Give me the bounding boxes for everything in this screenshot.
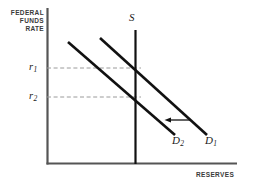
demand-d2-label-subscript: 2 [180, 139, 184, 148]
y-axis-title-line-2: FUNDS [8, 17, 44, 25]
x-axis-title: RESERVES [196, 171, 234, 179]
demand-shift-arrow [165, 117, 191, 122]
demand-d1-label-subscript: 1 [213, 139, 217, 148]
demand-curve-d2-label: D2 [172, 134, 184, 146]
demand-curve-d1-label: D1 [205, 134, 217, 146]
federal-funds-rate-diagram: FEDERAL FUNDS RATE RESERVES S D1 D2 r1 r… [0, 0, 257, 187]
demand-d2-label-text: D [172, 134, 180, 146]
y-axis-title: FEDERAL FUNDS RATE [8, 9, 44, 34]
y-axis-title-line-1: FEDERAL [8, 9, 44, 17]
demand-curve-d1 [100, 38, 207, 135]
rate-label-r2: r2 [29, 90, 37, 101]
supply-label-text: S [129, 11, 135, 23]
supply-curve-label: S [129, 11, 135, 23]
y-axis-title-line-3: RATE [8, 25, 44, 33]
demand-d1-label-text: D [205, 134, 213, 146]
rate-r1-subscript: 1 [33, 65, 37, 74]
rate-label-r1: r1 [29, 61, 37, 72]
rate-r2-subscript: 2 [33, 94, 37, 103]
